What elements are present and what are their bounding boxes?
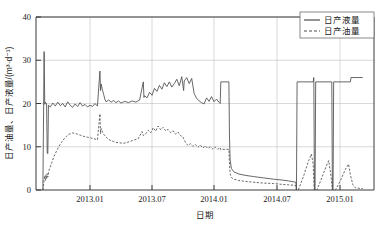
x-tick-label-2014-07: 2014.07 [263,194,291,204]
y-axis-title: 日产油量、日产液量/(m³·d⁻¹) [4,46,14,160]
y-tick-labels: 0 10 20 30 40 [23,12,32,195]
chart-container: 0 10 20 30 40 2013.01 2013.07 2014.01 20… [0,0,376,233]
y-tick-label-0: 0 [27,185,31,195]
x-axis-title: 日期 [196,210,214,220]
legend-label-oil: 日产油量 [324,26,360,36]
y-tick-label-20: 20 [23,99,32,109]
y-tick-label-30: 30 [23,55,32,65]
x-tick-label-2014-01: 2014.01 [200,194,228,204]
x-tick-labels: 2013.01 2013.07 2014.01 2014.07 2015.01 [76,194,354,204]
y-tick-label-40: 40 [23,12,32,22]
x-tick-label-2015-01: 2015.01 [326,194,354,204]
x-tick-label-2013-01: 2013.01 [76,194,104,204]
y-tick-label-10: 10 [23,142,32,152]
daily-production-line-chart: 0 10 20 30 40 2013.01 2013.07 2014.01 20… [0,0,376,233]
chart-legend: 日产液量 日产油量 [300,12,374,38]
x-tick-label-2013-07: 2013.07 [138,194,166,204]
legend-label-liquid: 日产液量 [324,15,360,25]
